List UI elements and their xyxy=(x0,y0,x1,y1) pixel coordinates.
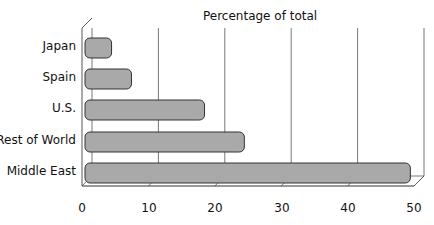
x-tick-label: 30 xyxy=(274,201,289,215)
category-label: Rest of World xyxy=(0,133,76,147)
category-label: Spain xyxy=(42,70,76,84)
bar-chart: Percentage of total Japan Spain U.S. Res… xyxy=(0,0,434,225)
bar xyxy=(85,38,112,58)
category-label: Japan xyxy=(43,39,76,53)
x-tick-label: 10 xyxy=(141,201,156,215)
category-label: Middle East xyxy=(7,164,76,178)
x-tick-label: 20 xyxy=(207,201,222,215)
category-label: U.S. xyxy=(52,101,76,115)
x-tick-label: 40 xyxy=(340,201,355,215)
floor-right-edge xyxy=(414,176,424,186)
bar xyxy=(85,100,205,120)
x-tick-label: 0 xyxy=(78,201,86,215)
bar xyxy=(85,163,410,183)
bar xyxy=(85,132,244,152)
x-tick-label: 50 xyxy=(406,201,421,215)
bar xyxy=(85,69,131,89)
